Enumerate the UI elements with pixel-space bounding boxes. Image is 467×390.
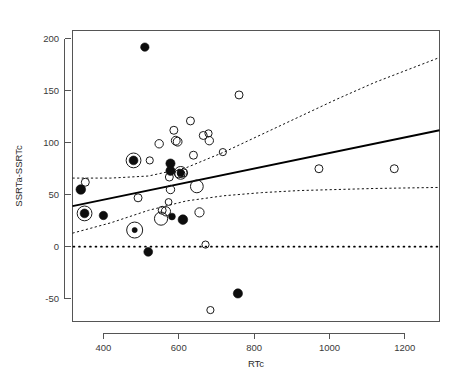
y-axis-tick-label: 100 (43, 137, 59, 148)
x-axis-tick-label: 800 (246, 342, 262, 353)
data-point-filled-circle (144, 247, 153, 256)
y-axis-tick-label: 0 (54, 241, 59, 252)
x-axis-title: RTc (248, 358, 264, 369)
data-point-filled-circle (233, 289, 242, 298)
data-point-filled-circle (76, 185, 86, 195)
x-axis-tick-label: 400 (95, 342, 111, 353)
y-axis-title: SSRTa-SSRTc (13, 145, 24, 207)
y-axis-tick-label: -50 (45, 293, 59, 304)
data-point-filled-circle (99, 211, 107, 219)
plot-canvas: 40060080010001200 200150100500-50 RTc SS… (0, 0, 467, 390)
data-point-filled-circle (132, 227, 137, 232)
data-point-filled-circle (169, 213, 176, 220)
data-point-filled-circle (178, 215, 188, 225)
data-point-filled-circle (80, 209, 89, 218)
y-axis-tick-label: 150 (43, 85, 59, 96)
x-axis-tick-label: 600 (171, 342, 187, 353)
x-axis-tick-label: 1000 (319, 342, 340, 353)
x-axis-tick-label: 1200 (394, 342, 415, 353)
data-point-filled-circle (129, 156, 138, 165)
data-point-filled-circle (166, 166, 175, 175)
data-point-filled-circle (141, 43, 149, 51)
scatter-plot-figure: 40060080010001200 200150100500-50 RTc SS… (0, 0, 467, 390)
data-point-filled-circle (177, 169, 184, 176)
y-axis-tick-label: 200 (43, 33, 59, 44)
y-axis-tick-label: 50 (48, 189, 59, 200)
